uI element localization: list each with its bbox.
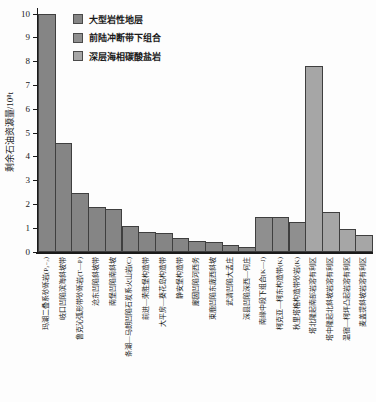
bar	[172, 238, 190, 252]
legend-swatch-lithologic-icon	[73, 14, 83, 24]
bar	[122, 226, 140, 252]
legend: 大型岩性地层 前陆冲断带下组合 深层海相碳酸盐岩	[73, 14, 161, 70]
x-axis-line	[36, 252, 373, 254]
y-tick-mark	[33, 61, 37, 62]
x-axis-label: 沧东凹陷斜坡带	[92, 257, 101, 306]
x-axis-label: 武清凹陷大孟庄	[226, 257, 235, 306]
bar	[222, 245, 240, 252]
y-tick-mark	[33, 109, 37, 110]
x-axis-label: 廊固凹陷河西务	[192, 257, 201, 306]
x-axis-label: 柯克亚—柯东构造带(K)	[276, 257, 285, 330]
y-tick-mark	[33, 37, 37, 38]
y-tick-label: 3	[8, 176, 30, 185]
bar	[55, 143, 73, 252]
legend-label: 前陆冲断带下组合	[89, 31, 161, 44]
bar	[255, 217, 273, 252]
x-axis-label: 温宿—柯坪凸起岩溶有利区	[343, 257, 352, 341]
bar	[138, 232, 156, 252]
y-tick-label: 7	[8, 81, 30, 90]
x-axis-label: 南缘中段下组合(K—J)	[259, 257, 268, 325]
legend-label: 深层海相碳酸盐岩	[89, 50, 161, 63]
x-axis-label: 大平房—葵花岛构造带	[159, 257, 168, 327]
y-tick-label: 8	[8, 57, 30, 66]
x-axis-label: 玛湖二叠系砂砾岩(P₂₋₃)	[42, 257, 51, 330]
bar	[38, 14, 56, 252]
x-axis-label: 秋里塔格构造带砂岩(K)	[293, 257, 302, 330]
y-tick-mark	[33, 204, 37, 205]
y-tick-mark	[33, 156, 37, 157]
x-axis-label: 深县凹陷深西—何庄	[243, 257, 252, 320]
y-tick-mark	[33, 252, 37, 253]
bar	[71, 193, 89, 253]
y-tick-label: 0	[8, 248, 30, 257]
x-axis-label: 条湖—马朗凹陷石炭系火山岩(C)	[126, 257, 135, 357]
bar	[355, 235, 373, 252]
y-tick-mark	[33, 180, 37, 181]
legend-item-foreland: 前陆冲断带下组合	[73, 33, 161, 43]
y-tick-label: 9	[8, 33, 30, 42]
y-tick-mark	[33, 85, 37, 86]
y-tick-label: 1	[8, 224, 30, 233]
legend-label: 大型岩性地层	[89, 13, 143, 26]
x-axis-label: 塔北隆起南部岩溶有利区	[309, 257, 318, 334]
bar	[88, 207, 106, 252]
legend-swatch-foreland-icon	[73, 33, 83, 43]
y-tick-label: 10	[8, 10, 30, 19]
x-axis-label: 鲁克沁弧形带砂砾岩(T—P)	[76, 257, 85, 340]
x-axis-label: 麦盖提斜坡岩溶有利区	[359, 257, 368, 327]
legend-item-lithologic: 大型岩性地层	[73, 14, 161, 24]
bar	[305, 66, 323, 252]
bar	[155, 233, 173, 252]
y-tick-mark	[33, 14, 37, 15]
bar	[205, 242, 223, 252]
legend-item-carbonate: 深层海相碳酸盐岩	[73, 51, 161, 61]
y-tick-label: 6	[8, 105, 30, 114]
x-axis-label: 岐口凹陷滨海斜坡带	[59, 257, 68, 320]
bar	[322, 212, 340, 252]
x-axis-label: 静安堡构造带	[176, 257, 185, 299]
bar	[339, 229, 357, 252]
x-axis-label: 塔中隆起北斜坡岩溶有利区	[326, 257, 335, 341]
y-tick-mark	[33, 133, 37, 134]
x-axis-label: 前进—荣胜堡构造带	[142, 257, 151, 320]
bar	[238, 247, 256, 252]
bar	[105, 209, 123, 252]
y-tick-label: 2	[8, 200, 30, 209]
x-axis-label: 束鹿凹陷东庞西斜坡	[209, 257, 218, 320]
y-tick-mark	[33, 228, 37, 229]
y-tick-label: 4	[8, 152, 30, 161]
legend-swatch-carbonate-icon	[73, 51, 83, 61]
bar	[272, 217, 290, 252]
x-axis-label: 南堡凹陷南斜坡	[109, 257, 118, 306]
bar	[289, 222, 307, 252]
y-tick-label: 5	[8, 129, 30, 138]
bar-chart: 剩余石油资源量/10⁸t 012345678910 玛湖二叠系砂砾岩(P₂₋₃)…	[0, 0, 376, 402]
bar	[188, 241, 206, 252]
